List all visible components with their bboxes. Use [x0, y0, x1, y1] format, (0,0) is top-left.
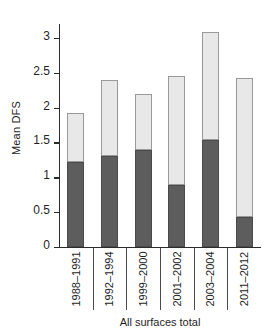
category-cell-2: 1992–1994 [93, 248, 127, 310]
plot-area: 00.511.522.53 [59, 24, 261, 247]
category-label: 1999–2000 [137, 248, 149, 310]
y-axis-line [59, 24, 60, 247]
category-separator [160, 248, 161, 310]
y-tick: 0.5 [54, 212, 59, 213]
bar-segment-lower [168, 185, 185, 247]
category-cell-4: 2001–2002 [160, 248, 194, 310]
y-tick: 2.5 [54, 73, 59, 74]
category-separator [227, 248, 228, 310]
category-label: 2003–2004 [204, 248, 216, 310]
category-separator [126, 248, 127, 310]
bar-6 [236, 78, 253, 247]
bar-chart: Mean DFS 00.511.522.53 1988–19911992–199… [0, 0, 266, 336]
bar-1 [67, 113, 84, 247]
bar-segment-lower [67, 162, 84, 247]
y-tick-label: 1 [43, 169, 50, 181]
bar-segment-lower [135, 150, 152, 247]
y-tick-label: 2 [43, 100, 50, 112]
category-label: 1988–1991 [70, 248, 82, 310]
category-axis: 1988–19911992–19941999–20002001–20022003… [59, 247, 261, 311]
y-tick-label: 3 [43, 30, 50, 42]
y-tick-label: 1.5 [33, 134, 50, 146]
bar-4 [168, 76, 185, 247]
category-cell-5: 2003–2004 [194, 248, 228, 310]
y-tick: 2 [54, 108, 59, 109]
category-cell-3: 1999–2000 [126, 248, 160, 310]
bar-segment-upper [135, 94, 152, 150]
bar-3 [135, 94, 152, 247]
bar-segment-lower [236, 217, 253, 247]
category-cell-6: 2011–2012 [227, 248, 261, 310]
bar-segment-upper [202, 32, 219, 141]
bar-segment-upper [168, 76, 185, 185]
y-tick: 1 [54, 177, 59, 178]
bar-segment-upper [101, 80, 118, 155]
x-axis-title: All surfaces total [59, 316, 261, 328]
category-label: 2001–2002 [171, 248, 183, 310]
category-label: 1992–1994 [103, 248, 115, 310]
category-cell-1: 1988–1991 [59, 248, 93, 310]
y-tick-label: 0 [43, 239, 50, 251]
y-tick: 1.5 [54, 142, 59, 143]
bar-segment-upper [236, 78, 253, 217]
bar-5 [202, 32, 219, 247]
category-separator [93, 248, 94, 310]
bar-segment-upper [67, 113, 84, 162]
y-tick-label: 2.5 [33, 65, 50, 77]
y-tick: 3 [54, 38, 59, 39]
bar-segment-lower [101, 156, 118, 247]
y-axis-title: Mean DFS [10, 68, 22, 188]
category-separator [194, 248, 195, 310]
bar-segment-lower [202, 140, 219, 247]
bar-2 [101, 80, 118, 247]
category-label: 2011–2012 [238, 248, 250, 310]
y-tick-label: 0.5 [33, 204, 50, 216]
